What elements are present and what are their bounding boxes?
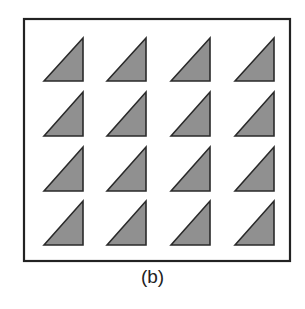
triangle-r2-c1 [44,92,83,136]
triangle-r4-c2 [107,201,146,245]
triangle-r3-c1 [44,147,83,191]
triangle-r2-c4 [235,92,274,136]
triangle-r3-c4 [235,147,274,191]
triangle-r4-c1 [44,201,83,245]
triangle-r1-c3 [171,38,210,81]
triangle-r1-c2 [107,38,146,81]
triangle-r4-c3 [171,201,210,245]
triangle-r4-c4 [235,201,274,245]
triangle-r2-c3 [171,92,210,136]
triangle-r3-c3 [171,147,210,191]
triangle-grid [44,38,274,245]
triangle-r1-c1 [44,38,83,81]
figure-caption: (b) [0,266,305,288]
triangle-r1-c4 [235,38,274,81]
triangle-r3-c2 [107,147,146,191]
triangle-grid-figure [0,0,305,309]
triangle-r2-c2 [107,92,146,136]
